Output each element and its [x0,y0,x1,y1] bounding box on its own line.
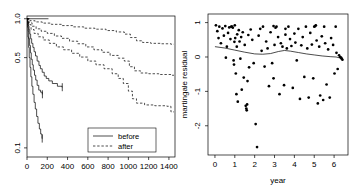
data-point [217,37,220,40]
data-point [285,47,288,50]
data-point [281,45,284,48]
x-tick-label-4: 4 [292,160,297,169]
data-point [238,40,241,43]
data-point [312,77,315,80]
data-point [241,31,244,34]
x-tick-label-7: 1400 [160,162,178,171]
data-point [259,27,262,30]
data-point [245,109,248,112]
data-point [240,88,243,91]
lowess-smoother [215,47,343,59]
residual-plot-group: 0123456year10-1-2martingale residual [180,14,348,185]
curve-before-1 [27,19,62,87]
data-point [226,45,229,48]
data-point [268,85,271,88]
data-point [311,43,314,46]
data-point [284,33,287,36]
data-point [273,44,276,47]
data-point [322,99,325,102]
y-tick-label-3: -2 [193,122,202,130]
data-point [269,31,272,34]
data-point [324,42,327,45]
data-point [216,30,219,33]
data-point [227,32,230,35]
data-point [265,40,268,43]
data-point [280,42,283,45]
legend-label-before: before [118,132,139,141]
x-tick-label-2: 400 [61,162,75,171]
curve-after-3 [27,19,174,112]
x-tick-label-4: 800 [101,162,115,171]
data-point [256,146,259,149]
data-point [248,66,251,69]
figure-container: 02004006008001000120014001.00.50.1before… [0,0,360,193]
y-tick-label-2: 0.1 [13,142,22,154]
legend-label-after: after [118,142,134,151]
data-point [246,80,249,83]
data-point [235,45,238,48]
x-axis-title: year [270,176,286,185]
data-point [289,38,292,41]
data-point [320,35,323,38]
data-point [218,25,221,28]
x-tick-label-2: 2 [252,160,257,169]
data-point [291,87,294,90]
x-tick-label-3: 3 [272,160,277,169]
data-point [319,94,322,97]
data-point [221,27,224,30]
data-point [334,25,337,28]
data-point [316,102,319,105]
data-point [247,34,250,37]
curve-after-2 [27,19,174,76]
data-point [237,29,240,32]
data-point [257,34,260,37]
data-point [287,25,290,28]
data-point [284,27,287,30]
data-point [309,32,312,35]
data-point [300,44,303,47]
data-point [315,39,318,42]
data-point [233,63,236,66]
data-point [215,24,218,27]
x-tick-label-6: 1200 [140,162,158,171]
data-point [295,59,298,62]
data-point [325,83,328,86]
data-point [297,27,300,30]
data-point [290,45,293,48]
data-point [232,59,235,62]
data-point [301,36,304,39]
data-point [236,100,239,103]
data-point [234,72,237,75]
y-tick-label-1: 0 [193,54,202,59]
x-tick-label-6: 6 [332,160,337,169]
y-tick-label-0: 1 [193,20,202,25]
data-point [233,41,236,44]
data-point [224,25,227,28]
panel-survival-curves: 02004006008001000120014001.00.50.1before… [0,0,180,193]
data-point [254,123,257,126]
data-point [249,28,252,31]
data-point [330,37,333,40]
data-point [260,49,263,52]
data-point [235,93,238,96]
data-point [240,36,243,39]
data-point [236,33,239,36]
data-point [336,68,339,71]
data-point [243,44,246,47]
data-point [333,72,336,75]
data-point [314,24,317,27]
data-point [271,62,274,65]
data-point [220,42,223,45]
data-point [233,24,236,27]
x-tick-label-0: 0 [25,162,30,171]
data-point [272,77,275,80]
data-point [303,76,306,79]
data-point [293,32,296,35]
x-tick-label-1: 1 [233,160,238,169]
survival-plot-group: 02004006008001000120014001.00.50.1before… [13,13,178,171]
data-point [332,44,335,47]
y-tick-label-1: 0.5 [13,52,22,64]
data-point [283,84,286,87]
data-point [327,48,330,51]
x-tick-label-5: 1000 [119,162,137,171]
